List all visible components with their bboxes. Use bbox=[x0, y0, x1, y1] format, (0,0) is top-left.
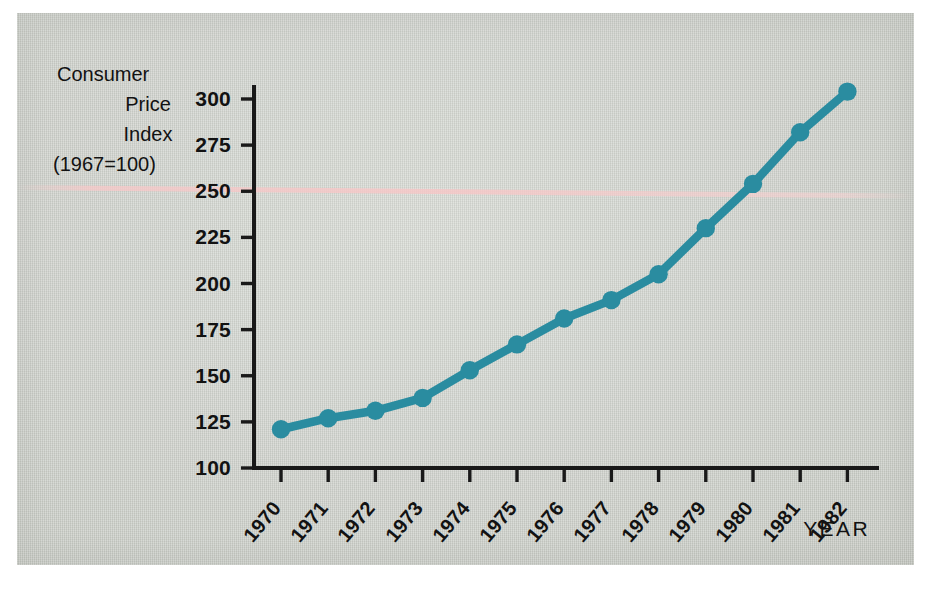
chart-plot-area bbox=[17, 13, 914, 565]
data-point-marker bbox=[791, 123, 809, 141]
data-point-marker bbox=[461, 361, 479, 379]
y-tick-label: 150 bbox=[169, 364, 231, 388]
data-point-marker bbox=[508, 335, 526, 353]
x-axis-title: YEAR bbox=[803, 517, 870, 541]
chart-plate: Consumer Price Index (1967=100) 10012515… bbox=[17, 13, 914, 565]
y-tick-label: 300 bbox=[169, 87, 231, 111]
data-point-marker bbox=[697, 219, 715, 237]
data-point-marker bbox=[555, 309, 573, 327]
data-point-marker bbox=[319, 409, 337, 427]
y-tick-label: 275 bbox=[169, 133, 231, 157]
y-tick-label: 225 bbox=[169, 225, 231, 249]
y-tick-label: 100 bbox=[169, 456, 231, 480]
data-point-marker bbox=[366, 402, 384, 420]
y-tick-label: 200 bbox=[169, 272, 231, 296]
data-point-marker bbox=[649, 265, 667, 283]
line-chart: Consumer Price Index (1967=100) 10012515… bbox=[17, 13, 914, 565]
data-point-marker bbox=[413, 389, 431, 407]
series-marker-group bbox=[272, 82, 857, 438]
series-line-consumer-price-index bbox=[281, 92, 847, 430]
y-tick-label: 250 bbox=[169, 179, 231, 203]
data-point-marker bbox=[272, 420, 290, 438]
y-tick-label: 125 bbox=[169, 410, 231, 434]
screenshot-page: Consumer Price Index (1967=100) 10012515… bbox=[0, 0, 939, 611]
data-point-marker bbox=[744, 175, 762, 193]
y-tick-label: 175 bbox=[169, 318, 231, 342]
data-point-marker bbox=[838, 82, 856, 100]
data-point-marker bbox=[602, 291, 620, 309]
